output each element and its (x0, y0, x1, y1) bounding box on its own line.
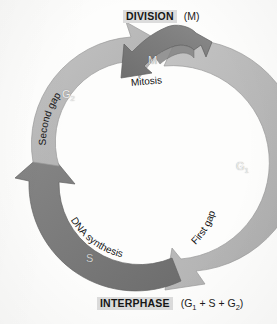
division-title: DIVISION (123, 10, 177, 23)
phase-arrow-g1 (164, 40, 277, 290)
division-header: DIVISION (M) (123, 10, 199, 23)
interphase-header: INTERPHASE (G1 + S + G2) (97, 297, 243, 313)
cell-cycle-diagram: Second gap First gap DNA synthesis DIVIS… (0, 0, 277, 324)
division-phase-note: (M) (184, 11, 200, 22)
phase-arrow-s (15, 150, 181, 291)
phase-label-g2: G2 (62, 88, 75, 103)
phase-label-g1: G1 (236, 160, 249, 175)
interphase-phase-note: (G1 + S + G2) (181, 298, 244, 313)
phase-label-m: M (148, 54, 157, 66)
phase-label-s: S (86, 252, 93, 264)
interphase-title: INTERPHASE (97, 297, 173, 310)
